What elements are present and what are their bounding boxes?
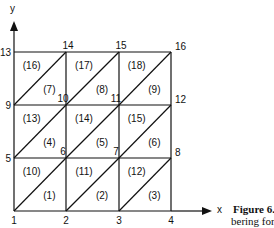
x-axis-label: x <box>217 204 222 215</box>
node-label: 15 <box>115 40 127 51</box>
node-label: 13 <box>0 47 11 58</box>
element-label: (9) <box>148 84 160 95</box>
figure-caption-title: Figure 6. <box>233 203 274 215</box>
element-label: (11) <box>75 166 92 177</box>
element-label: (8) <box>96 84 108 95</box>
triangular-mesh-diagram: 12345678910111213141516 (1)(2)(3)(4)(5)(… <box>0 0 274 228</box>
element-label: (13) <box>23 113 41 124</box>
node-label: 6 <box>60 146 66 157</box>
element-label: (14) <box>75 113 93 124</box>
element-label: (2) <box>96 190 108 201</box>
y-axis-arrow-icon <box>10 21 18 31</box>
element-label: (3) <box>148 190 160 201</box>
node-label: 10 <box>57 93 69 104</box>
node-label: 2 <box>63 215 69 226</box>
y-axis-label: y <box>10 3 15 14</box>
mesh-grid <box>14 52 171 211</box>
node-label: 4 <box>168 215 174 226</box>
element-labels: (1)(2)(3)(4)(5)(6)(7)(8)(9)(10)(11)(12)(… <box>23 60 161 201</box>
node-label: 16 <box>175 41 187 52</box>
node-label: 9 <box>5 100 11 111</box>
node-label: 3 <box>116 215 122 226</box>
element-label: (7) <box>43 84 55 95</box>
figure-caption-line2: bering for <box>231 215 274 227</box>
node-label: 1 <box>11 215 17 226</box>
element-label: (15) <box>128 113 146 124</box>
node-label: 12 <box>175 94 187 105</box>
element-label: (16) <box>23 60 41 71</box>
element-label: (18) <box>128 60 146 71</box>
node-label: 8 <box>175 147 181 158</box>
node-label: 5 <box>5 153 11 164</box>
element-label: (5) <box>96 137 108 148</box>
element-label: (1) <box>43 190 55 201</box>
node-label: 11 <box>111 93 122 104</box>
element-label: (17) <box>75 60 93 71</box>
node-label: 7 <box>113 146 119 157</box>
element-label: (6) <box>148 137 160 148</box>
node-label: 14 <box>62 40 74 51</box>
x-axis-arrow-icon <box>202 207 212 215</box>
element-label: (10) <box>23 166 41 177</box>
element-label: (4) <box>43 137 55 148</box>
element-label: (12) <box>128 166 146 177</box>
